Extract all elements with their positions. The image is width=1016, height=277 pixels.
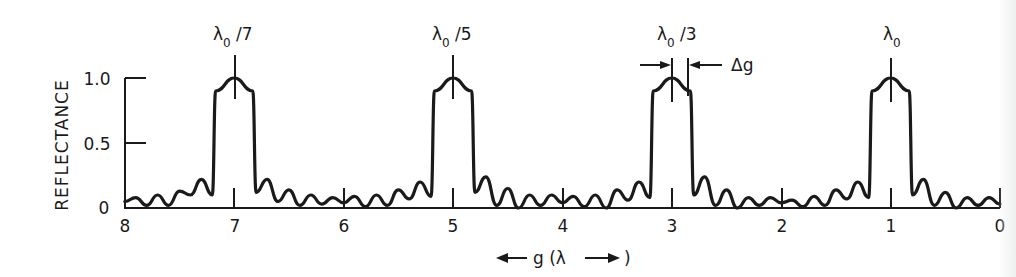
y-tick-1.0: 1.0 [83,69,110,89]
page-edge-shadow [998,0,1016,277]
svg-text:/5: /5 [455,24,472,44]
y-tick-0: 0 [99,198,110,218]
svg-text:0: 0 [667,36,675,50]
y-axis-label: REFLECTANCE [52,79,72,210]
x-tick-8: 8 [120,216,131,236]
x-tick-2: 2 [777,216,788,236]
x-tick-7: 7 [230,216,241,236]
y-tick-0.5: 0.5 [83,134,110,154]
svg-text:Δg: Δg [731,55,753,75]
peak-label-lambda0: λ 0 [883,24,901,50]
reflectance-chart: REFLECTANCE 1.0 0.5 0 8 7 6 5 4 3 2 1 0 … [0,0,1016,277]
arrow-right-icon [608,253,620,263]
arrow-left-icon [496,253,508,263]
svg-text:/3: /3 [680,24,697,44]
x-tick-labels: 8 7 6 5 4 3 2 1 0 [120,216,1006,236]
x-tick-3: 3 [667,216,678,236]
x-tick-5: 5 [448,216,459,236]
svg-text:): ) [624,248,631,268]
peak-markers [235,55,891,102]
peak-label-lambda0-7: λ 0 /7 [213,24,253,50]
svg-text:/7: /7 [236,24,253,44]
x-tick-6: 6 [339,216,350,236]
peak-label-lambda0-3: λ 0 /3 [657,24,697,50]
svg-text:λ: λ [213,24,223,44]
svg-text:λ: λ [657,24,667,44]
svg-text:0: 0 [442,36,450,50]
svg-text:λ: λ [883,24,893,44]
svg-text:g (λ: g (λ [533,248,566,268]
peak-label-lambda0-5: λ 0 /5 [432,24,472,50]
svg-text:0: 0 [223,36,231,50]
svg-text:λ: λ [432,24,442,44]
svg-text:0: 0 [893,36,901,50]
x-tick-4: 4 [558,216,569,236]
x-axis-label: g (λ ) [496,248,631,268]
x-tick-1: 1 [886,216,897,236]
